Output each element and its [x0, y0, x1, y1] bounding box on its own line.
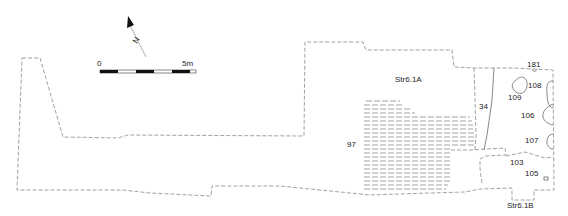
label-context-108: 108: [528, 81, 542, 90]
excavation-plan: N 0 5m: [0, 0, 568, 216]
context-34-boundary: [474, 68, 476, 150]
feature-105-marker: [544, 177, 548, 180]
label-context-97: 97: [347, 140, 356, 149]
north-arrow-icon: N: [127, 16, 146, 57]
hatched-area-97: [364, 101, 474, 189]
north-label: N: [131, 35, 142, 45]
label-context-105: 105: [525, 169, 539, 178]
scale-end-label: 5m: [182, 59, 193, 68]
label-context-107: 107: [525, 136, 539, 145]
scale-start-label: 0: [97, 59, 102, 68]
feature-109: [512, 77, 527, 93]
inner-cut-line: [451, 148, 506, 185]
label-context-181: 181: [527, 60, 541, 69]
label-context-34: 34: [479, 102, 488, 111]
label-context-109: 109: [508, 93, 522, 102]
label-context-103: 103: [510, 158, 524, 167]
label-context-106: 106: [521, 111, 535, 120]
feature-107: [547, 134, 553, 149]
feature-108: [547, 81, 553, 108]
label-str-6-1b: Str6.1B: [507, 201, 534, 210]
label-str-6-1a: Str6.1A: [395, 75, 422, 84]
scale-bar: 0 5m: [97, 59, 196, 73]
